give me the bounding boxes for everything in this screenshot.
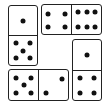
pip-dot [28, 90, 33, 95]
pip-dot [28, 75, 33, 80]
pip-dot [78, 75, 83, 80]
domino-1-4[interactable] [72, 39, 102, 101]
pip-dot [44, 90, 49, 95]
pip-dot [21, 83, 26, 88]
domino-1-5[interactable] [8, 5, 38, 66]
domino-5-2[interactable] [8, 69, 69, 101]
pip-dot [78, 90, 83, 95]
pip-dot [92, 75, 97, 80]
pip-dot [63, 24, 68, 29]
domino-4-6[interactable] [41, 4, 102, 35]
pip-dot [75, 24, 80, 29]
pip-dot [14, 41, 19, 46]
pip-dot [45, 11, 50, 16]
pip-dot [84, 24, 89, 29]
domino-half-1 [9, 6, 37, 35]
pip-dot [60, 77, 65, 82]
pip-dot [28, 55, 33, 60]
pip-dot [75, 10, 80, 15]
pip-dot [14, 75, 19, 80]
pip-dot [21, 48, 26, 53]
pip-dot [21, 18, 26, 23]
pip-dot [28, 41, 33, 46]
pip-dot [93, 10, 98, 15]
domino-half-1 [73, 40, 101, 70]
pip-dot [93, 24, 98, 29]
domino-half-5 [9, 70, 38, 100]
pip-dot [14, 90, 19, 95]
pip-dot [14, 55, 19, 60]
pip-dot [84, 10, 89, 15]
pip-dot [85, 52, 90, 57]
pip-dot [63, 11, 68, 16]
domino-half-2 [38, 70, 68, 100]
pip-dot [45, 24, 50, 29]
domino-half-5 [9, 35, 37, 65]
domino-half-4 [73, 70, 101, 101]
domino-half-6 [71, 5, 101, 34]
pip-dot [92, 90, 97, 95]
domino-half-4 [42, 5, 71, 34]
